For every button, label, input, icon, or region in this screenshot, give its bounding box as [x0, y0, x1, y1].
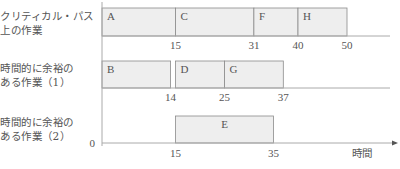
tick-label: 31 — [248, 39, 259, 51]
task-label-E: E — [221, 118, 228, 130]
task-label-H: H — [303, 10, 311, 22]
tick-label: 25 — [219, 91, 231, 103]
task-label-G: G — [230, 63, 238, 75]
tick-label: 40 — [293, 39, 305, 51]
tick-label: 35 — [268, 147, 280, 159]
origin-label: 0 — [90, 137, 96, 149]
task-label-C: C — [181, 10, 188, 22]
tick-label: 50 — [342, 39, 354, 51]
tick-label: 14 — [165, 91, 177, 103]
task-label-F: F — [259, 10, 265, 22]
tick-label: 37 — [278, 91, 290, 103]
task-label-B: B — [107, 63, 114, 75]
task-label-A: A — [107, 10, 115, 22]
task-label-D: D — [181, 63, 189, 75]
gantt-chart: ACFH15314050BDG142537E15350時間 — [0, 0, 400, 169]
x-axis-label: 時間 — [352, 148, 372, 159]
tick-label: 15 — [170, 147, 182, 159]
x-axis-arrow-icon — [392, 141, 398, 146]
tick-label: 15 — [170, 39, 182, 51]
